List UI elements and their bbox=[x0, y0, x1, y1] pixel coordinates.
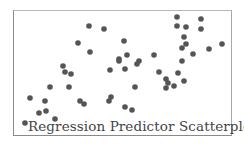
data-point bbox=[66, 84, 72, 90]
data-point bbox=[107, 67, 113, 73]
data-point bbox=[47, 84, 53, 90]
data-point bbox=[181, 78, 187, 84]
data-point bbox=[86, 23, 92, 29]
data-point bbox=[183, 24, 189, 30]
data-point bbox=[183, 41, 189, 47]
data-point bbox=[198, 26, 204, 32]
data-point bbox=[179, 45, 185, 51]
data-point bbox=[136, 58, 142, 64]
data-point bbox=[75, 40, 81, 46]
data-point bbox=[181, 34, 187, 40]
data-point bbox=[27, 95, 33, 101]
data-point bbox=[116, 58, 122, 64]
data-point bbox=[62, 69, 68, 75]
data-point bbox=[174, 14, 180, 20]
data-point bbox=[171, 83, 177, 89]
data-point bbox=[198, 16, 204, 22]
chart-title: Regression Predictor Scatterplot bbox=[28, 118, 244, 134]
data-point bbox=[163, 85, 169, 91]
data-point bbox=[124, 52, 130, 58]
data-point bbox=[122, 104, 128, 110]
data-point bbox=[108, 94, 114, 100]
data-point bbox=[174, 23, 180, 29]
data-point bbox=[190, 51, 196, 57]
data-point bbox=[42, 98, 48, 104]
data-point bbox=[132, 84, 138, 90]
data-point bbox=[129, 107, 135, 113]
data-point bbox=[175, 70, 181, 76]
data-point bbox=[101, 26, 107, 32]
data-point bbox=[156, 69, 162, 75]
data-point bbox=[179, 58, 185, 64]
data-point bbox=[43, 108, 49, 114]
data-point bbox=[36, 110, 42, 116]
data-point bbox=[68, 71, 74, 77]
data-point bbox=[87, 49, 93, 55]
data-point bbox=[121, 38, 127, 44]
data-point bbox=[122, 66, 128, 72]
data-point bbox=[22, 120, 28, 126]
data-point bbox=[206, 46, 212, 52]
data-point bbox=[165, 80, 171, 86]
data-point bbox=[151, 52, 157, 58]
data-point bbox=[81, 101, 87, 107]
data-point bbox=[219, 41, 225, 47]
data-point bbox=[60, 63, 66, 69]
